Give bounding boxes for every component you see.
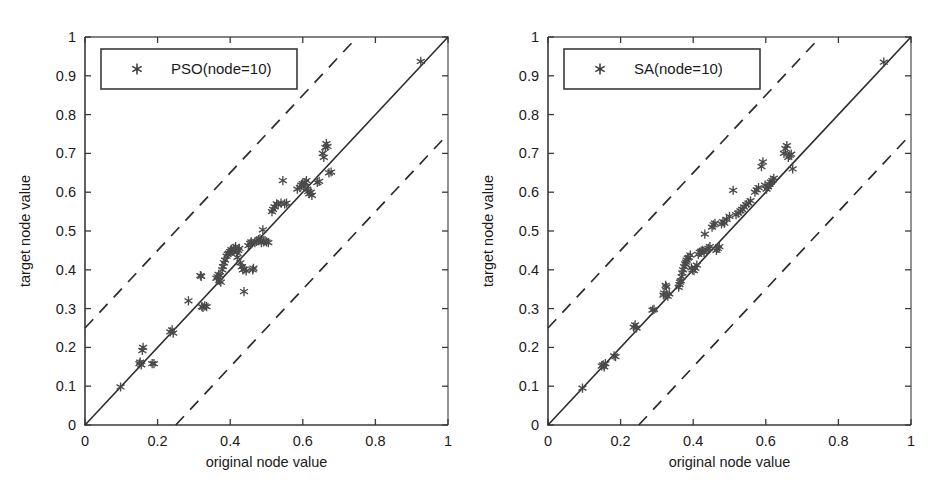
y-tick-label: 0.7 — [519, 145, 539, 161]
y-tick-label: 0.5 — [56, 223, 76, 239]
legend-label: PSO(node=10) — [171, 60, 271, 77]
data-point-marker — [701, 230, 709, 239]
x-tick-label: 1 — [907, 433, 915, 449]
y-axis-title: target node value — [17, 175, 33, 287]
y-tick-label: 0.3 — [519, 301, 539, 317]
y-tick-label: 0.9 — [519, 68, 539, 84]
y-tick-label: 0.7 — [56, 145, 76, 161]
x-tick-label: 1 — [444, 433, 452, 449]
x-tick-label: 0 — [544, 433, 552, 449]
x-tick-label: 0.4 — [683, 433, 703, 449]
scatter-panel-sa: 00.10.20.30.40.50.60.70.80.9100.20.40.60… — [463, 0, 935, 480]
data-point-marker — [279, 176, 287, 185]
x-tick-label: 0.8 — [828, 433, 848, 449]
y-tick-label: 0.4 — [56, 262, 76, 278]
y-tick-label: 0.2 — [519, 339, 539, 355]
y-tick-label: 0.3 — [56, 301, 76, 317]
y-tick-label: 0.5 — [519, 223, 539, 239]
data-point-marker — [729, 186, 737, 195]
y-tick-label: 0.6 — [519, 184, 539, 200]
x-axis-title: original node value — [669, 454, 791, 470]
data-point-marker — [417, 57, 425, 66]
y-tick-label: 0.4 — [519, 262, 539, 278]
y-tick-label: 0.1 — [56, 378, 76, 394]
data-point-marker — [184, 296, 192, 305]
y-tick-label: 0.9 — [56, 68, 76, 84]
data-point-marker — [240, 287, 248, 296]
data-point-marker — [139, 343, 147, 352]
x-tick-label: 0.6 — [293, 433, 313, 449]
legend: SA(node=10) — [564, 49, 760, 89]
legend-label: SA(node=10) — [634, 60, 723, 77]
x-tick-label: 0.6 — [756, 433, 776, 449]
scatter-panel-pso: 00.10.20.30.40.50.60.70.80.9100.20.40.60… — [0, 0, 472, 480]
figure-container: 00.10.20.30.40.50.60.70.80.9100.20.40.60… — [0, 0, 943, 480]
x-tick-label: 0.4 — [220, 433, 240, 449]
x-axis-title: original node value — [206, 454, 328, 470]
plot-left: 00.10.20.30.40.50.60.70.80.9100.20.40.60… — [0, 0, 472, 480]
y-tick-label: 0 — [68, 417, 76, 433]
y-tick-label: 0.1 — [519, 378, 539, 394]
x-tick-label: 0.2 — [611, 433, 631, 449]
y-tick-label: 0.2 — [56, 339, 76, 355]
legend: PSO(node=10) — [101, 49, 297, 89]
y-tick-label: 0.8 — [519, 107, 539, 123]
plot-right: 00.10.20.30.40.50.60.70.80.9100.20.40.60… — [463, 0, 935, 480]
y-tick-label: 0 — [531, 417, 539, 433]
x-tick-label: 0.8 — [365, 433, 385, 449]
y-tick-label: 1 — [68, 29, 76, 45]
x-tick-label: 0.2 — [148, 433, 168, 449]
y-tick-label: 0.6 — [56, 184, 76, 200]
y-tick-label: 1 — [531, 29, 539, 45]
x-axis-ticks: 00.20.40.60.81 — [544, 37, 915, 449]
x-tick-label: 0 — [81, 433, 89, 449]
y-tick-label: 0.8 — [56, 107, 76, 123]
y-axis-title: target node value — [480, 175, 496, 287]
